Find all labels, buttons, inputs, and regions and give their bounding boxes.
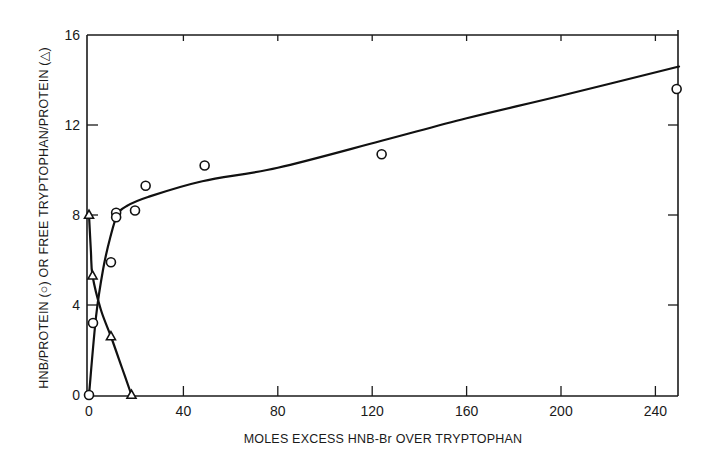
hnb-protein-circle-marker <box>377 150 386 159</box>
y-tick-label: 4 <box>72 297 80 313</box>
chart: 04080120160200240 0481216 MOLES EXCESS H… <box>0 0 714 467</box>
free-tryptophan-triangle-marker <box>88 271 97 279</box>
x-tick-label: 240 <box>644 403 668 419</box>
x-tick-label: 200 <box>549 403 573 419</box>
hnb-protein-circle-marker <box>200 161 209 170</box>
y-tick-label: 12 <box>64 117 80 133</box>
x-tick-label: 0 <box>85 403 93 419</box>
x-axis-title: MOLES EXCESS HNB-Br OVER TRYPTOPHAN <box>244 432 523 446</box>
x-axis-ticks: 04080120160200240 <box>85 35 667 419</box>
y-tick-label: 0 <box>72 387 80 403</box>
data-markers <box>85 85 682 400</box>
y-tick-label: 8 <box>72 207 80 223</box>
x-tick-label: 160 <box>455 403 479 419</box>
hnb-protein-fit-curve <box>89 67 679 396</box>
hnb-protein-circle-marker <box>672 85 681 94</box>
plot-frame <box>87 30 678 396</box>
hnb-protein-circle-marker <box>85 391 94 400</box>
y-tick-label: 16 <box>64 27 80 43</box>
hnb-protein-circle-marker <box>89 319 98 328</box>
y-axis-title: HNB/PROTEIN (○) OR FREE TRYPTOPHAN/PROTE… <box>37 47 51 389</box>
x-tick-label: 120 <box>361 403 385 419</box>
hnb-protein-circle-marker <box>112 213 121 222</box>
fit-curves <box>89 67 679 396</box>
free-tryptophan-triangle-marker <box>85 210 94 218</box>
hnb-protein-circle-marker <box>131 206 140 215</box>
y-axis-ticks: 0481216 <box>64 27 678 403</box>
x-tick-label: 80 <box>270 403 286 419</box>
hnb-protein-circle-marker <box>106 258 115 267</box>
hnb-protein-circle-marker <box>141 181 150 190</box>
x-tick-label: 40 <box>176 403 192 419</box>
free-tryptophan-triangle-marker <box>106 332 115 340</box>
free-tryptophan-triangle-marker <box>127 390 136 398</box>
